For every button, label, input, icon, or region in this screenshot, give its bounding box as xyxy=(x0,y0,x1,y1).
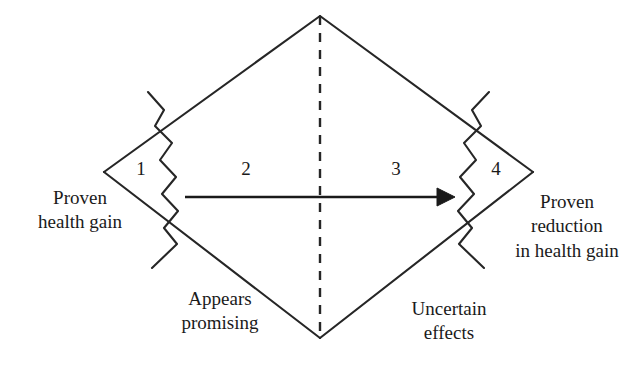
zone-number-4: 4 xyxy=(481,157,511,181)
zone-number-2: 2 xyxy=(231,157,261,181)
zone-number-1: 1 xyxy=(126,157,156,181)
arrow-head-icon xyxy=(437,188,455,206)
diamond-edge-top-right xyxy=(320,16,533,172)
label-appears-promising: Appears promising xyxy=(150,287,290,336)
diagram-canvas xyxy=(0,0,640,366)
figure-root: 1 2 3 4 Proven health gain Proven reduct… xyxy=(0,0,640,366)
zone-number-3: 3 xyxy=(381,157,411,181)
diamond-edge-top-left xyxy=(104,16,320,172)
label-proven-reduction-in-health-gain: Proven reduction in health gain xyxy=(494,190,640,263)
label-uncertain-effects: Uncertain effects xyxy=(384,297,514,346)
label-proven-health-gain: Proven health gain xyxy=(12,186,148,235)
